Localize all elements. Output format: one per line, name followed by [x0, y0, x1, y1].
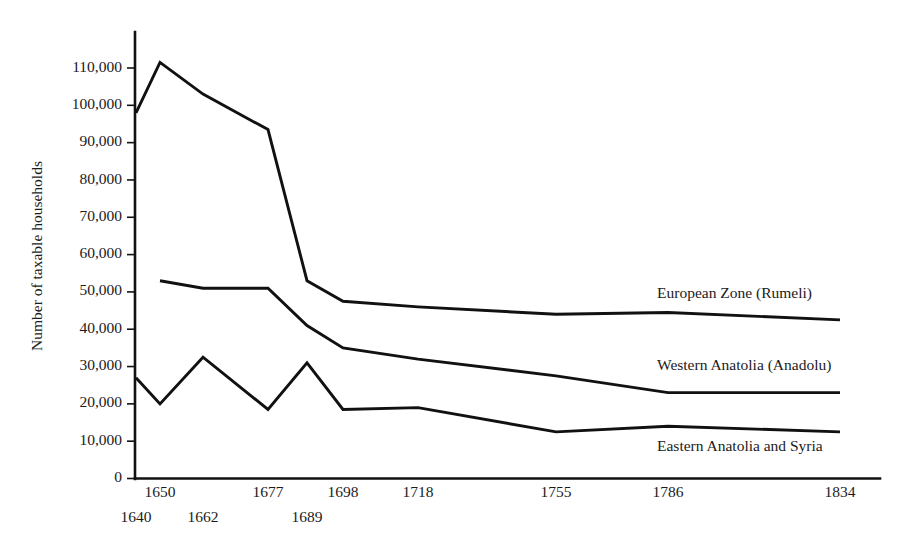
- x-axis-tick-label: 1718: [403, 483, 434, 500]
- chart-container: 010,00020,00030,00040,00050,00060,00070,…: [0, 0, 910, 552]
- y-axis-tick-label: 30,000: [79, 356, 122, 373]
- x-axis-tick-labels: 1640165016621677168916981718175517861834: [121, 483, 856, 525]
- x-axis-tick-label: 1662: [188, 508, 219, 525]
- x-axis-tick-label: 1698: [328, 483, 359, 500]
- y-axis-tick-labels: 010,00020,00030,00040,00050,00060,00070,…: [72, 58, 123, 486]
- y-axis-tick-label: 80,000: [79, 170, 122, 187]
- series-lines: [136, 62, 840, 431]
- x-axis-tick-label: 1786: [653, 483, 684, 500]
- x-axis-tick-label: 1755: [541, 483, 572, 500]
- line-chart-plot: 010,00020,00030,00040,00050,00060,00070,…: [0, 0, 910, 552]
- y-axis-tick-label: 60,000: [79, 244, 122, 261]
- x-axis-tick-label: 1689: [292, 508, 323, 525]
- x-axis-tick-label: 1650: [145, 483, 176, 500]
- x-axis-tick-label: 1834: [825, 483, 856, 500]
- y-axis-tick-label: 70,000: [79, 207, 122, 224]
- series-label-1: Western Anatolia (Anadolu): [657, 356, 831, 374]
- y-axis-title: Number of taxable households: [28, 161, 45, 351]
- y-axis-tick-label: 50,000: [79, 281, 122, 298]
- x-axis-tick-label: 1640: [121, 508, 152, 525]
- x-axis-tick-label: 1677: [253, 483, 284, 500]
- y-axis-tick-label: 10,000: [79, 431, 122, 448]
- y-axis-tick-label: 100,000: [72, 95, 123, 112]
- y-axis-tick-label: 40,000: [79, 319, 122, 336]
- y-axis-tick-label: 0: [114, 468, 122, 485]
- y-axis-tick-label: 110,000: [72, 58, 122, 75]
- series-label-0: European Zone (Rumeli): [657, 284, 812, 302]
- series-line-0: [136, 62, 840, 320]
- y-axis-tick-label: 90,000: [79, 132, 122, 149]
- y-axis-tick-label: 20,000: [79, 393, 122, 410]
- series-label-2: Eastern Anatolia and Syria: [657, 437, 823, 454]
